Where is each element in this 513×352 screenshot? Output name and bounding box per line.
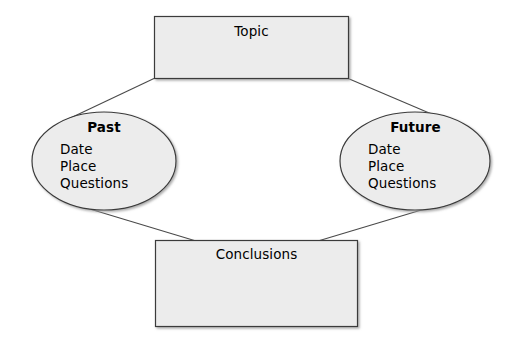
future-item-list: Date Place Questions [368, 141, 483, 192]
past-item-questions: Questions [60, 175, 170, 192]
conclusions-label: Conclusions [155, 247, 358, 263]
past-heading: Past [32, 120, 176, 136]
past-item-date: Date [60, 141, 170, 158]
topic-label: Topic [154, 24, 349, 40]
diagram-canvas: Topic Past Date Place Questions Future D… [0, 0, 513, 352]
future-heading: Future [340, 120, 491, 136]
future-item-questions: Questions [368, 175, 483, 192]
future-item-date: Date [368, 141, 483, 158]
past-item-list: Date Place Questions [60, 141, 170, 192]
future-item-place: Place [368, 158, 483, 175]
past-item-place: Place [60, 158, 170, 175]
